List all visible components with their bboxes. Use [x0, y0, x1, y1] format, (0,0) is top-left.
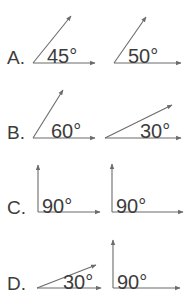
- row-label-b: B.: [7, 123, 25, 142]
- row-label-c: C.: [7, 198, 26, 217]
- angle-value-30-d: 30°: [63, 272, 93, 292]
- angle-value-60: 60°: [51, 121, 81, 141]
- angle-value-90-left: 90°: [42, 196, 72, 216]
- angle-value-45: 45°: [47, 46, 77, 66]
- row-label-d: D.: [7, 274, 26, 293]
- angle-value-90-d: 90°: [117, 272, 147, 292]
- worksheet-page: A. B. C. D. 45° 50° 60° 30° 90° 90° 30° …: [0, 0, 184, 308]
- angle-value-50: 50°: [128, 46, 158, 66]
- angle-value-90-right: 90°: [116, 196, 146, 216]
- row-label-a: A.: [7, 48, 25, 67]
- angle-value-30: 30°: [140, 121, 170, 141]
